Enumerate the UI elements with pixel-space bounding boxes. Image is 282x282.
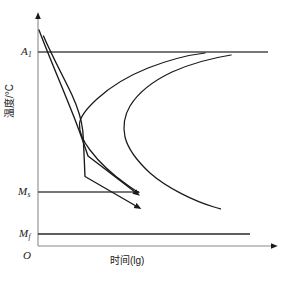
origin-label: O [23, 250, 31, 261]
y-axis-label: 温度/°C [5, 75, 15, 127]
ttt-diagram-figure: A1 Ms Mf O 温度/°C 时间(lg) [0, 0, 282, 282]
c-curve-transformation-start [79, 53, 205, 192]
temperature-lines-group [38, 52, 268, 234]
cooling-curve-fast [39, 30, 135, 192]
a1-axis-label: A1 [21, 46, 31, 57]
plot-canvas [0, 0, 282, 282]
c-curve-transformation-finish [124, 55, 231, 209]
x-axis-label: 时间(lg) [110, 256, 144, 266]
c-curves-group [79, 53, 231, 209]
cooling-curves-group [39, 30, 136, 206]
ms-axis-label: Ms [18, 186, 30, 197]
mf-axis-label: Mf [19, 228, 30, 239]
